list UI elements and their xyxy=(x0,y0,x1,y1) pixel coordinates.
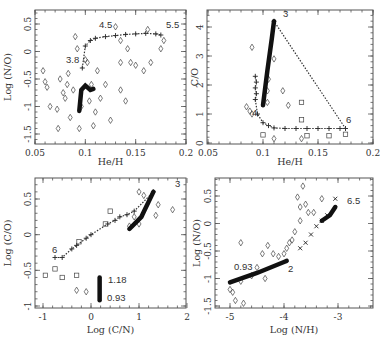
y-tick-label: -1 xyxy=(23,102,33,111)
diamond-marker xyxy=(65,81,69,87)
data-layer xyxy=(41,24,166,132)
annotation-label: 6 xyxy=(52,244,57,255)
diamond-marker xyxy=(43,79,47,85)
y-tick-label: 1 xyxy=(195,111,205,117)
x-tick-label: 1 xyxy=(136,312,142,322)
diamond-marker xyxy=(58,76,62,82)
square-marker xyxy=(299,118,303,122)
x-axis-label: Log (N/H) xyxy=(270,324,318,335)
diamond-marker xyxy=(286,102,290,108)
square-marker xyxy=(327,134,331,138)
diamond-marker xyxy=(296,194,300,200)
diamond-marker xyxy=(260,251,264,257)
y-tick-label: -1.5 xyxy=(203,297,213,315)
diamond-marker xyxy=(119,59,123,65)
diamond-marker xyxy=(71,87,75,93)
diamond-marker xyxy=(114,24,118,30)
diamond-marker xyxy=(300,135,304,141)
plus-marker xyxy=(253,74,258,79)
diamond-marker xyxy=(77,125,81,131)
x-axis-label: He/H xyxy=(98,156,123,167)
y-tick-label: 0 xyxy=(23,48,33,54)
diamond-marker xyxy=(134,62,138,68)
panel-top-left: 0.050.10.150.2-1.5-1-0.500.5He/HLog (N/O… xyxy=(2,10,193,167)
diamond-marker xyxy=(156,202,160,208)
model-track xyxy=(129,192,153,229)
cross-marker xyxy=(333,197,337,201)
diamond-marker xyxy=(250,44,254,50)
diamond-marker xyxy=(304,201,308,207)
diamond-marker xyxy=(93,109,97,115)
annotation-label: 1.18 xyxy=(108,274,127,285)
x-tick-label: 0.15 xyxy=(126,148,146,158)
diamond-marker xyxy=(124,98,128,104)
plot-frame xyxy=(35,178,186,308)
diamond-marker xyxy=(239,240,243,246)
cross-marker xyxy=(304,241,308,245)
diamond-marker xyxy=(263,275,267,281)
square-marker xyxy=(53,267,57,271)
square-marker xyxy=(43,273,47,277)
diamond-marker xyxy=(320,196,324,202)
data-layer xyxy=(228,183,337,307)
x-tick-label: 0.15 xyxy=(308,148,328,158)
x-tick-label: 2 xyxy=(184,312,190,322)
annotation-label: 0.93 xyxy=(234,261,253,272)
panel-top-right: 0.050.10.150.201234He/HC/O364 xyxy=(189,8,380,167)
diamond-marker xyxy=(129,59,133,65)
square-marker xyxy=(305,134,309,138)
diamond-marker xyxy=(68,114,72,120)
diamond-marker xyxy=(233,297,237,303)
annotation-label: 4.5 xyxy=(99,19,112,30)
x-tick-label: -1 xyxy=(39,312,48,322)
data-layer xyxy=(245,19,349,142)
y-axis-label: C/O xyxy=(189,68,200,86)
x-tick-label: 0.1 xyxy=(78,148,92,158)
diamond-marker xyxy=(75,46,79,52)
x-tick-label: 0 xyxy=(88,312,94,322)
diamond-marker xyxy=(41,68,45,74)
x-tick-label: -4 xyxy=(280,312,289,322)
x-tick-label: -3 xyxy=(334,312,343,322)
y-tick-label: 0.5 xyxy=(23,192,33,207)
diamond-marker xyxy=(109,117,113,123)
diamond-marker xyxy=(119,37,123,43)
panel-bottom-right: -5-4-3-1.5-1-0.500.5Log (N/H)Log (N/O)0.… xyxy=(191,178,373,335)
diamond-marker xyxy=(312,209,316,215)
diamond-marker xyxy=(56,125,60,131)
diamond-marker xyxy=(149,59,153,65)
y-axis-label: Log (N/O) xyxy=(2,53,13,101)
square-marker xyxy=(299,100,303,104)
diamond-marker xyxy=(119,87,123,93)
y-tick-label: 4 xyxy=(195,24,205,30)
diamond-marker xyxy=(45,84,49,90)
y-tick-label: -0.5 xyxy=(23,261,33,279)
diamond-marker xyxy=(298,218,302,224)
diamond-marker xyxy=(266,242,270,248)
diamond-marker xyxy=(162,37,166,43)
figure: 0.050.10.150.2-1.5-1-0.500.5He/HLog (N/O… xyxy=(0,0,385,349)
annotation-label: 6.5 xyxy=(347,195,360,206)
diamond-marker xyxy=(55,106,59,112)
diamond-marker xyxy=(61,90,65,96)
y-tick-label: -1 xyxy=(203,274,213,283)
square-marker xyxy=(343,132,347,136)
model-track xyxy=(79,86,93,111)
annotation-label: 0.93 xyxy=(107,292,126,303)
annotation-label: 5.5 xyxy=(166,19,179,30)
diamond-marker xyxy=(84,289,88,295)
diamond-marker xyxy=(245,104,249,110)
y-tick-label: -1 xyxy=(23,302,33,311)
y-tick-label: 0.5 xyxy=(23,17,33,32)
plus-marker xyxy=(113,218,118,223)
diamond-marker xyxy=(306,209,310,215)
x-tick-label: 0.1 xyxy=(256,148,270,158)
diamond-marker xyxy=(48,103,52,109)
diamond-marker xyxy=(271,251,275,257)
diamond-marker xyxy=(277,253,281,259)
y-axis-label: Log (C/O) xyxy=(2,220,13,267)
cross-marker xyxy=(314,224,318,228)
diamond-marker xyxy=(281,88,285,94)
diamond-marker xyxy=(126,46,130,52)
diamond-marker xyxy=(142,68,146,74)
